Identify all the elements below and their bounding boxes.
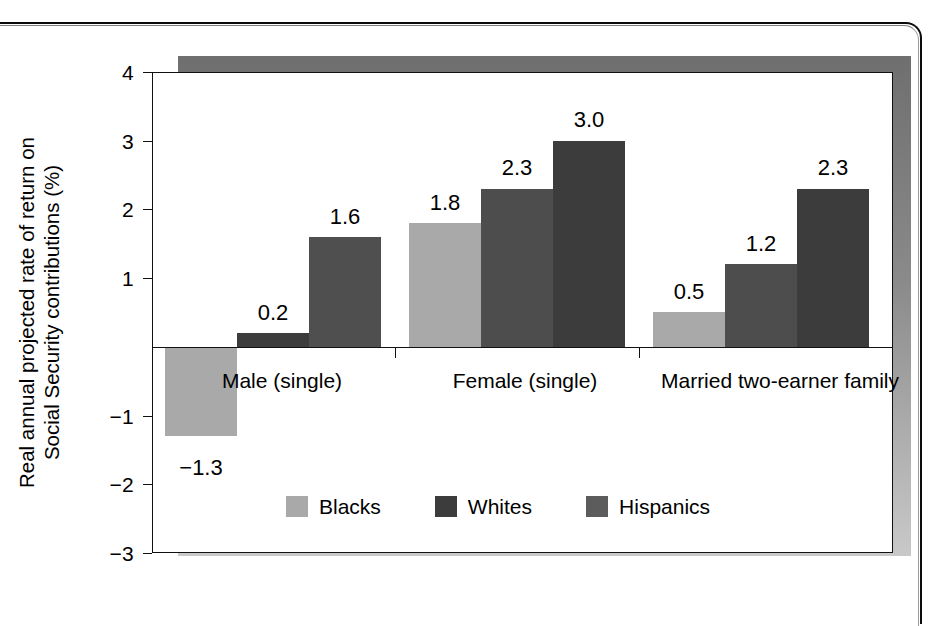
- legend-label-hispanics: Hispanics: [619, 496, 710, 517]
- group-label-male: Male (single): [222, 370, 342, 391]
- bar-female-blacks[interactable]: [409, 223, 481, 347]
- bar-label-married-hispanics: 2.3: [818, 157, 849, 179]
- bar-male-whites[interactable]: [237, 333, 309, 347]
- y-tick-2: [143, 209, 152, 210]
- legend-item-hispanics[interactable]: Hispanics: [586, 496, 710, 517]
- y-tick-label-2: 2: [122, 199, 134, 220]
- y-tick-minus-2: [143, 484, 152, 485]
- y-tick-1: [143, 278, 152, 279]
- bar-label-female-hispanics: 3.0: [574, 109, 605, 131]
- y-tick-label-4: 4: [122, 62, 134, 83]
- y-tick-label-minus-1: −1: [109, 405, 134, 426]
- bar-label-married-whites: 1.2: [746, 233, 777, 255]
- y-axis-title-text: Real annual projected rate of return on …: [14, 137, 64, 488]
- bar-label-married-blacks: 0.5: [674, 281, 705, 303]
- group-separator-2: [639, 347, 640, 358]
- legend-label-whites: Whites: [468, 496, 532, 517]
- legend-label-blacks: Blacks: [319, 496, 381, 517]
- bar-married-whites[interactable]: [725, 264, 797, 346]
- y-tick-label-minus-2: −2: [109, 474, 134, 495]
- legend-swatch-blacks: [286, 496, 308, 517]
- y-axis-title: Real annual projected rate of return on …: [14, 0, 54, 72]
- bar-male-hispanics[interactable]: [309, 237, 381, 347]
- y-axis-line: [152, 72, 153, 553]
- bar-label-male-hispanics: 1.6: [330, 206, 361, 228]
- legend-item-blacks[interactable]: Blacks: [286, 496, 381, 517]
- legend-swatch-hispanics: [586, 496, 608, 517]
- y-tick-label-minus-3: −3: [109, 543, 134, 564]
- legend-item-whites[interactable]: Whites: [435, 496, 532, 517]
- group-separator-1: [395, 347, 396, 358]
- y-tick-label-1: 1: [122, 268, 134, 289]
- bar-married-hispanics[interactable]: [797, 189, 869, 347]
- zero-baseline: [152, 347, 893, 348]
- group-label-married: Married two-earner family: [661, 370, 899, 391]
- y-tick-4: [143, 72, 152, 73]
- bar-label-male-blacks: −1.3: [179, 457, 222, 479]
- y-tick-label-3: 3: [122, 130, 134, 151]
- chart-legend: Blacks Whites Hispanics: [286, 496, 710, 517]
- y-tick-minus-3: [143, 553, 152, 554]
- bar-label-female-whites: 2.3: [502, 157, 533, 179]
- bar-label-male-whites: 0.2: [258, 302, 289, 324]
- bar-married-blacks[interactable]: [653, 312, 725, 346]
- group-label-female: Female (single): [453, 370, 598, 391]
- plot-area: 4 3 2 1 −1 −2 −3 −1.3 0.2 1.6 1.8 2.3 3.…: [152, 72, 893, 553]
- bar-female-hispanics[interactable]: [553, 141, 625, 347]
- bar-female-whites[interactable]: [481, 189, 553, 347]
- bar-label-female-blacks: 1.8: [430, 192, 461, 214]
- legend-swatch-whites: [435, 496, 457, 517]
- y-tick-minus-1: [143, 416, 152, 417]
- y-tick-3: [143, 141, 152, 142]
